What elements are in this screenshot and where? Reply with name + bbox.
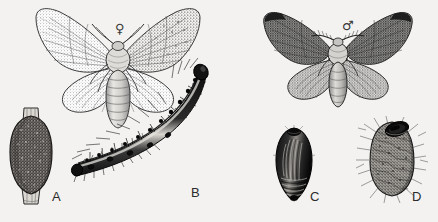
caterpillar-drawing <box>72 58 208 198</box>
illustration-plate: ♀ <box>0 0 438 222</box>
figure-label-d: D <box>412 189 422 204</box>
male-moth-drawing <box>258 4 418 114</box>
male-moth-figure <box>258 4 418 114</box>
male-symbol: ♂ <box>342 19 354 32</box>
figure-label-a: A <box>52 189 61 204</box>
figure-label-c: C <box>310 189 320 204</box>
female-symbol: ♀ <box>115 22 125 35</box>
figure-label-b: B <box>191 185 200 200</box>
caterpillar-figure <box>72 58 208 198</box>
